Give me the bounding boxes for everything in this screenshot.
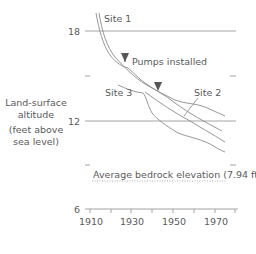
bedrock-label: Average bedrock elevation (7.94 ft) — [93, 169, 256, 180]
y-tick-label-12: 12 — [68, 116, 80, 127]
y-tick-label-18: 18 — [68, 26, 80, 37]
site-3-label: Site 3 — [105, 87, 132, 98]
chart-plot: 18 12 6 1910 1930 1950 1970 Average bedr… — [0, 0, 256, 254]
pumps-installed-label: Pumps installed — [132, 56, 207, 67]
x-tick-label-1910: 1910 — [79, 216, 103, 227]
x-tick-label-1970: 1970 — [204, 216, 228, 227]
y-tick-label-6: 6 — [74, 204, 80, 215]
site-1-label: Site 1 — [104, 13, 131, 24]
series-site-3-upper — [145, 92, 225, 142]
x-ticks — [90, 209, 235, 213]
x-tick-label-1930: 1930 — [120, 216, 144, 227]
x-tick-label-1950: 1950 — [162, 216, 186, 227]
site-2-label: Site 2 — [194, 87, 221, 98]
